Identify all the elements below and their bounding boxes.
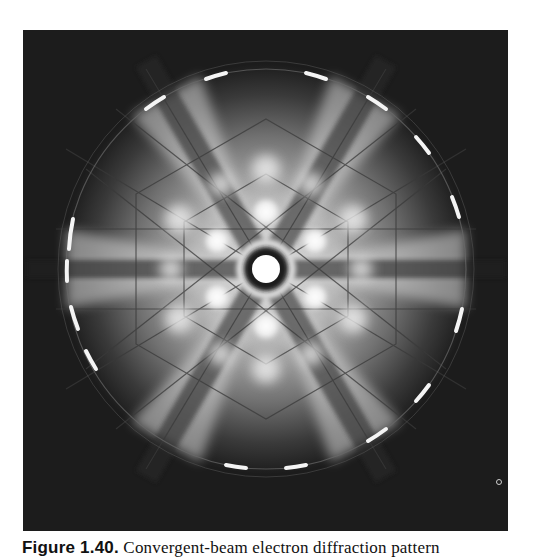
figure-caption: Figure 1.40. Convergent-beam electron di… [22, 538, 440, 558]
diffraction-pattern-graphic [23, 30, 508, 531]
diffraction-pattern-image [23, 30, 508, 531]
small-circle-mark [497, 480, 502, 485]
figure-label: Figure 1.40. [22, 538, 119, 557]
figure-caption-text: Convergent-beam electron diffraction pat… [123, 538, 439, 557]
